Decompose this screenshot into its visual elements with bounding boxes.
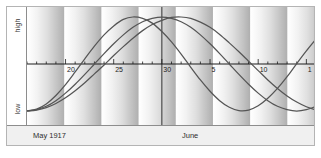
month-label-may: May 1917 xyxy=(33,131,66,140)
svg-text:30: 30 xyxy=(163,66,171,73)
svg-text:1: 1 xyxy=(308,66,312,73)
y-axis-low-label: low xyxy=(14,95,21,115)
plot-area: 2025305101 xyxy=(27,7,314,125)
svg-text:5: 5 xyxy=(212,66,216,73)
svg-text:20: 20 xyxy=(67,66,75,73)
svg-text:10: 10 xyxy=(260,66,268,73)
y-axis-high-label: high xyxy=(14,13,21,33)
svg-text:25: 25 xyxy=(115,66,123,73)
month-label-june: June xyxy=(182,131,198,140)
month-band: May 1917 June xyxy=(7,125,314,145)
chart-frame: high low 2025305101 May 1917 June xyxy=(6,6,315,146)
y-axis-label-gutter: high low xyxy=(7,7,27,125)
curve-layer: 2025305101 xyxy=(27,7,314,125)
biorhythm-curves-svg: 2025305101 xyxy=(27,7,314,125)
